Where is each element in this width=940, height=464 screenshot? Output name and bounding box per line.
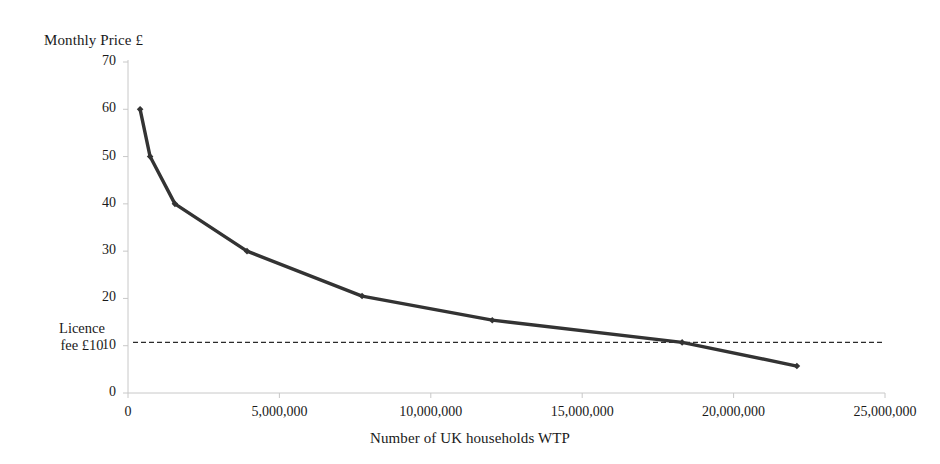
chart-container: Monthly Price £ Number of UK households … — [0, 0, 940, 464]
data-point-marker — [794, 363, 801, 370]
data-point-marker — [489, 317, 496, 324]
plot-area — [0, 0, 940, 464]
data-point-marker — [679, 339, 686, 346]
axes-group — [123, 60, 885, 398]
series-group — [137, 106, 800, 369]
series-line — [140, 109, 797, 366]
data-point-marker — [137, 106, 144, 113]
